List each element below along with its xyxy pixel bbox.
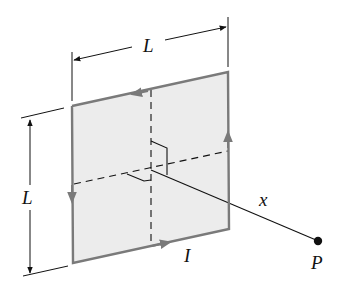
- point-label: P: [310, 252, 323, 273]
- top-side-label: L: [142, 35, 154, 56]
- top-dimension-arrow-right: [165, 27, 226, 40]
- left-extension-top: [21, 108, 64, 118]
- point-p-dot: [314, 237, 322, 245]
- square-loop-diagram: L L P x I: [0, 0, 339, 290]
- left-side-label: L: [21, 187, 33, 208]
- distance-label: x: [258, 189, 268, 210]
- top-dimension-arrow-left: [74, 47, 132, 60]
- current-label: I: [183, 245, 192, 266]
